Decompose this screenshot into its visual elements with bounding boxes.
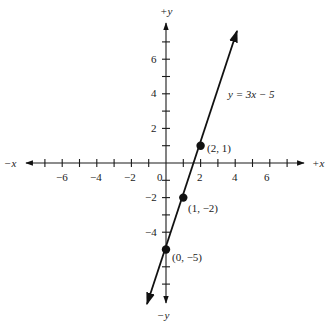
coordinate-plane: −x +x +y −y −6 −4 −2 0 2 4 6 6 4 2 −2 −4… [0,0,332,330]
y-tick-label: 4 [151,87,157,99]
x-tick-label: 4 [232,171,238,183]
x-tick-label: 6 [264,171,270,183]
y-tick-label: 6 [151,53,157,65]
line-y-equals-3x-minus-5 [147,31,237,304]
x-tick-label: −6 [56,171,68,183]
point-1-neg2 [179,193,187,201]
point-label: (1, −2) [188,202,218,215]
point-0-neg5 [162,245,170,253]
origin-label: 0 [157,171,163,183]
point-2-1 [196,142,204,150]
equation-label: y = 3x − 5 [227,88,275,100]
x-tick-label: −4 [90,171,102,183]
y-tick-label: −2 [145,191,157,203]
point-label: (2, 1) [207,142,231,155]
neg-y-label: −y [157,309,169,321]
pos-y-label: +y [160,5,172,17]
point-label: (0, −5) [172,251,202,264]
y-tick-label: −4 [145,226,157,238]
x-tick-label: 2 [197,171,203,183]
x-tick-label: −2 [124,171,136,183]
y-tick-label: 2 [151,122,157,134]
neg-x-label: −x [4,157,16,169]
pos-x-label: +x [312,157,324,169]
